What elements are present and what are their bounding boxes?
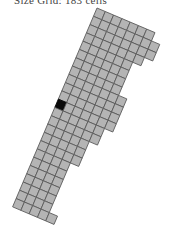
rotated-grid-group bbox=[13, 8, 164, 235]
cell-grid bbox=[0, 0, 181, 238]
